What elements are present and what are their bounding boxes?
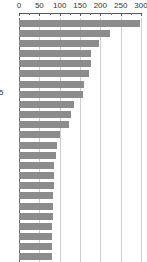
x-axis-tick-labels: 050100150200250300: [0, 0, 147, 14]
x-tick-label: 0: [17, 1, 21, 11]
bar: [19, 203, 53, 210]
bar-row: [19, 69, 89, 79]
bar-row: [19, 99, 74, 109]
bar-row: [19, 181, 54, 191]
bar: [19, 111, 71, 118]
bar: [19, 60, 91, 67]
bar: [19, 70, 89, 77]
bar: [19, 233, 52, 240]
bar: [19, 101, 74, 108]
bar: [19, 30, 110, 37]
bar-series: [0, 18, 147, 262]
x-tick-label: 150: [73, 1, 86, 11]
bar-row: [19, 191, 53, 201]
bar-row: [19, 59, 91, 69]
bar-row: [19, 211, 53, 221]
x-tick-mark: [80, 13, 81, 16]
bar-row: [19, 89, 83, 99]
bar-row: [19, 252, 52, 262]
bar: [19, 20, 140, 27]
bar: [19, 91, 83, 98]
x-tick-label: 50: [35, 1, 44, 11]
x-tick-mark-minor: [70, 13, 71, 15]
bar: [19, 223, 52, 230]
bar-row: [19, 201, 53, 211]
horizontal-bar-chart: 050100150200250300 5: [0, 0, 147, 262]
bar: [19, 81, 84, 88]
x-tick-mark: [39, 13, 40, 16]
x-tick-mark-minor: [131, 13, 132, 15]
bar: [19, 162, 54, 169]
bar-row: [19, 171, 54, 181]
plot-area: [0, 18, 147, 262]
bar: [19, 192, 53, 199]
bar-row: [19, 232, 52, 242]
y-axis-label: 5: [0, 88, 8, 98]
x-tick-mark-minor: [29, 13, 30, 15]
bar: [19, 152, 56, 159]
bar: [19, 172, 54, 179]
bar: [19, 40, 99, 47]
bar-row: [19, 242, 52, 252]
bar-row: [19, 38, 99, 48]
bar: [19, 243, 52, 250]
bar: [19, 131, 60, 138]
x-tick-label: 100: [53, 1, 66, 11]
bar-row: [19, 140, 57, 150]
bar: [19, 253, 52, 260]
x-tick-mark: [60, 13, 61, 16]
x-tick-mark-minor: [50, 13, 51, 15]
bar-row: [19, 79, 84, 89]
bar-row: [19, 130, 60, 140]
x-tick-label: 300: [134, 1, 147, 11]
x-tick-mark-minor: [111, 13, 112, 15]
x-tick-mark-minor: [90, 13, 91, 15]
bar-row: [19, 49, 91, 59]
bar: [19, 142, 57, 149]
bar-row: [19, 120, 69, 130]
bar: [19, 213, 53, 220]
x-tick-mark: [121, 13, 122, 16]
bar-row: [19, 221, 52, 231]
bar-row: [19, 110, 71, 120]
bar-row: [19, 28, 110, 38]
x-tick-mark: [100, 13, 101, 16]
x-tick-mark: [19, 13, 20, 16]
bar-row: [19, 18, 140, 28]
bar: [19, 121, 69, 128]
bar-row: [19, 160, 54, 170]
bar: [19, 182, 54, 189]
bar-row: [19, 150, 56, 160]
bar: [19, 50, 91, 57]
x-tick-label: 250: [114, 1, 127, 11]
x-tick-label: 200: [94, 1, 107, 11]
x-tick-mark: [141, 13, 142, 16]
